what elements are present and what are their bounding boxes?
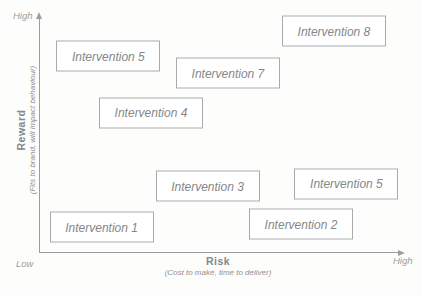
intervention-box: Intervention 1: [50, 212, 154, 243]
intervention-box: Intervention 2: [249, 209, 353, 240]
y-axis-subtitle: (Fits to brand, will impact behaviour): [28, 10, 37, 250]
intervention-box: Intervention 7: [176, 58, 280, 89]
y-axis-label-block: Reward (Fits to brand, will impact behav…: [15, 10, 37, 250]
x-axis-label-block: Risk (Cost to make, time to deliver): [39, 255, 397, 277]
y-axis-high-label: High: [13, 10, 33, 21]
intervention-box: Intervention 5: [56, 41, 160, 72]
intervention-box: Intervention 8: [282, 16, 386, 47]
intervention-box: Intervention 4: [99, 97, 203, 128]
intervention-box: Intervention 3: [156, 171, 260, 202]
y-axis-title: Reward: [15, 10, 27, 250]
origin-low-label: Low: [16, 258, 33, 269]
x-axis-title: Risk: [39, 255, 397, 267]
plot-area: Intervention 5Intervention 8Intervention…: [39, 19, 398, 253]
risk-reward-matrix-chart: Reward (Fits to brand, will impact behav…: [0, 0, 422, 296]
x-axis-subtitle: (Cost to make, time to deliver): [39, 268, 397, 277]
intervention-box: Intervention 5: [294, 168, 398, 199]
x-axis-arrowhead-icon: [398, 250, 405, 256]
y-axis-arrowhead-icon: [36, 12, 42, 19]
